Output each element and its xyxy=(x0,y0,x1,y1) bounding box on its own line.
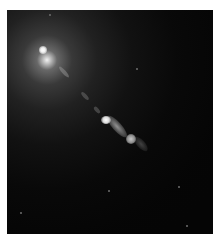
star xyxy=(178,186,180,188)
star xyxy=(108,190,110,192)
jet-knot-bright xyxy=(101,116,111,124)
star xyxy=(136,68,138,70)
star xyxy=(49,14,51,16)
galaxy-core xyxy=(39,46,47,54)
galaxy-image xyxy=(7,10,213,234)
star xyxy=(20,212,22,214)
star xyxy=(186,225,188,227)
